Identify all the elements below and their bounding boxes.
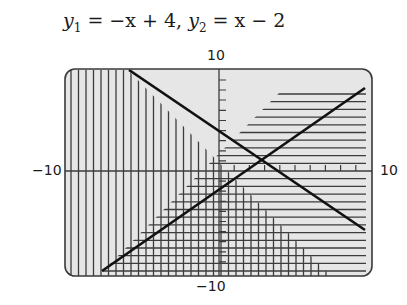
graph-screen [0,0,407,305]
